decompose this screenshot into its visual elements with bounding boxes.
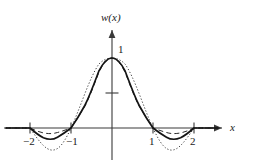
x-tick-label-pos2: 2	[190, 136, 196, 147]
y-axis-label: w(x)	[101, 12, 121, 23]
x-tick-label-pos1: 1	[149, 136, 155, 147]
x-axis-label: x	[230, 122, 235, 133]
y-axis	[109, 30, 116, 160]
y-axis-arrow-icon	[109, 30, 116, 38]
x-axis	[4, 125, 222, 132]
y-tick-label-one: 1	[118, 44, 124, 55]
x-tick-label-neg1: −1	[66, 136, 78, 147]
figure-root: w(x) x 1 −2 −1 1 2	[0, 0, 255, 166]
x-tick-label-neg2: −2	[23, 136, 35, 147]
plot-canvas	[0, 0, 255, 166]
